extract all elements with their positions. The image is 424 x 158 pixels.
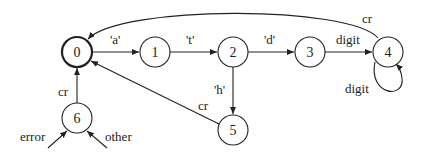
- state-2: 2: [218, 37, 248, 67]
- state-5-label: 5: [230, 123, 237, 138]
- edge-label-other: other: [105, 129, 132, 144]
- state-0-label: 0: [74, 45, 81, 60]
- edge-label-d: 'd': [264, 32, 275, 47]
- edge-label-a: 'a': [110, 32, 120, 47]
- state-diagram: 0 1 2 3 4 5 6 'a' 't' 'd' digit digit cr…: [0, 0, 424, 158]
- edge-label-cr-4-0: cr: [362, 11, 373, 26]
- state-6-label: 6: [74, 111, 81, 126]
- edge-label-cr-6-0: cr: [58, 84, 69, 99]
- edge-label-error: error: [20, 129, 46, 144]
- edge-4-0: [88, 13, 378, 39]
- edge-5-0: [91, 61, 219, 124]
- state-3: 3: [295, 37, 325, 67]
- state-1: 1: [140, 37, 170, 67]
- edge-label-digit: digit: [336, 32, 360, 47]
- edge-error-6: [48, 131, 67, 148]
- state-1-label: 1: [152, 45, 159, 60]
- edge-label-digit-loop: digit: [345, 81, 369, 96]
- state-6: 6: [62, 103, 92, 133]
- state-4-label: 4: [385, 45, 392, 60]
- state-2-label: 2: [230, 45, 237, 60]
- edge-label-cr-5-0: cr: [198, 98, 209, 113]
- state-5: 5: [218, 115, 248, 145]
- edge-label-h: 'h': [214, 82, 225, 97]
- state-3-label: 3: [307, 45, 314, 60]
- state-4: 4: [373, 37, 403, 67]
- edge-label-t: 't': [186, 32, 194, 47]
- state-0: 0: [62, 37, 92, 67]
- edge-other-6: [87, 131, 107, 148]
